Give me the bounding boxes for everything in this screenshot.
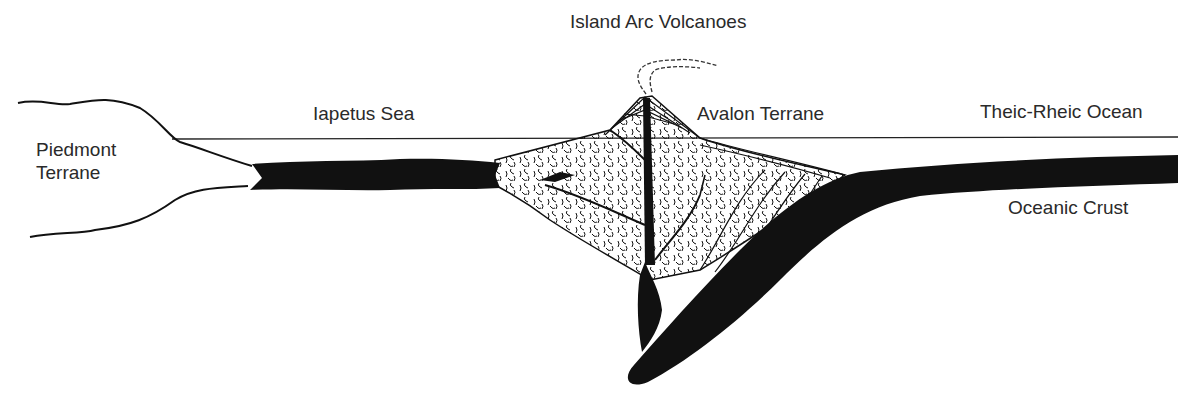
label-piedmont-line1: Piedmont <box>36 139 116 161</box>
volcanic-plume <box>638 59 718 94</box>
label-oceanic-crust: Oceanic Crust <box>1008 197 1128 219</box>
label-theic-rheic-ocean: Theic-Rheic Ocean <box>980 101 1143 123</box>
iapetus-crust-slab <box>250 159 500 190</box>
diagram-canvas: Island Arc Volcanoes Iapetus Sea Avalon … <box>0 0 1200 400</box>
label-piedmont-line2: Terrane <box>36 162 100 184</box>
label-island-arc-volcanoes: Island Arc Volcanoes <box>570 11 746 33</box>
label-iapetus-sea: Iapetus Sea <box>313 103 414 125</box>
label-avalon-terrane: Avalon Terrane <box>697 103 824 125</box>
